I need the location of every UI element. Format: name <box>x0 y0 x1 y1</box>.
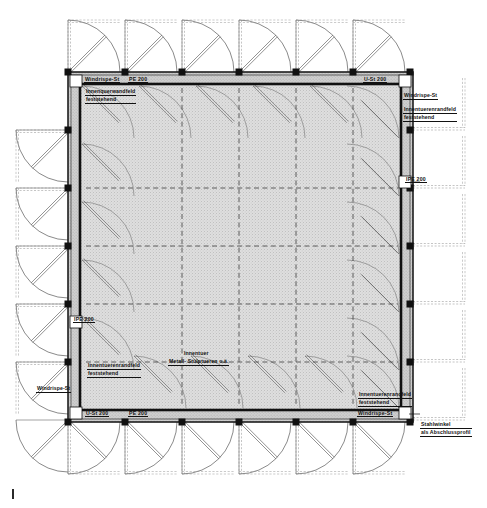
label-stahlwinkel: Stahlwinkel als Abschlussprofil <box>420 421 472 437</box>
label-left-innentuerenrandfeld: Innentuerenrandfeld feststehend <box>87 362 141 378</box>
floor-plan-canvas: Windrispe-St PE 200 U-St 200 Innenquerwa… <box>0 0 487 508</box>
sheet-registration-mark <box>12 489 14 499</box>
label-right-windrispe: Windrispe-St <box>403 92 438 100</box>
label-bottom-ust200: U-St 200 <box>85 410 109 416</box>
label-right-ipe200: IPE 200 <box>405 176 427 182</box>
label-center-innentuer: Innentuer <box>183 350 210 357</box>
label-bottom-right-innentuerenrandfeld: Innentuerenrandfeld feststehend <box>358 391 412 407</box>
label-center-material: Metall- Stülptueren o.ä. <box>168 358 229 366</box>
label-top-windrispe: Windrispe-St <box>84 76 120 82</box>
label-left-windrispe: Windrispe-St <box>36 385 71 393</box>
plan-drawing <box>0 0 487 508</box>
label-right-innentuerenrandfeld: Innentuerenrandfeld feststehend <box>403 106 457 122</box>
label-top-pe200: PE 200 <box>128 76 148 82</box>
label-bottom-right-windrispe: Windrispe-St <box>357 410 393 416</box>
label-innenquerwandfeld: Innenquerwandfeld feststehend <box>85 88 136 104</box>
label-top-right-ust200: U-St 200 <box>363 76 387 82</box>
label-bottom-pe200: PE 200 <box>128 410 148 416</box>
label-left-ipe200: IPE 200 <box>73 316 95 322</box>
